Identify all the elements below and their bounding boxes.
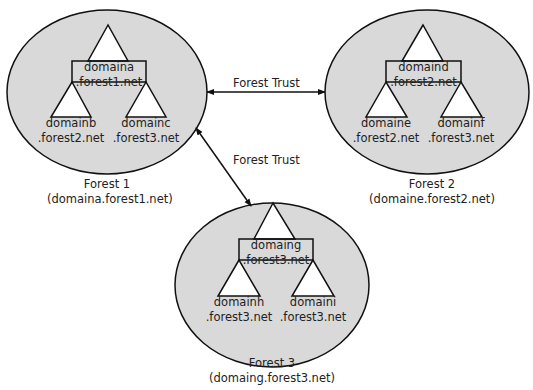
domain-label: domaini.forest3.net (278, 295, 348, 325)
trust-label-1-3: Forest Trust (233, 153, 300, 168)
domain-label: domaind.forest2.net (386, 60, 461, 90)
forest-2 (325, 10, 529, 174)
forest-1 (7, 10, 207, 174)
domain-label: domaina.forest1.net (72, 60, 146, 90)
forest-3 (175, 203, 369, 367)
domain-label: domainc.forest3.net (111, 116, 181, 146)
domain-label: domainf.forest3.net (426, 116, 496, 146)
forest-caption: Forest 1(domaina.forest1.net) (47, 177, 167, 207)
domain-label: domaine.forest2.net (351, 116, 421, 146)
domain-label: domainh.forest3.net (204, 295, 274, 325)
trust-label-1-2: Forest Trust (233, 76, 300, 91)
forest-caption: Forest 3(domaing.forest3.net) (207, 356, 337, 386)
domain-label: domaing.forest3.net (239, 238, 313, 268)
forest-caption: Forest 2(domaine.forest2.net) (367, 177, 497, 207)
domain-label: domainb.forest2.net (36, 116, 106, 146)
